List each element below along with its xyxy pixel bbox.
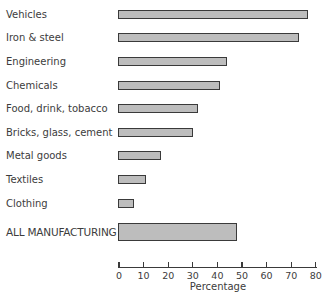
category-label: Food, drink, tobacco bbox=[6, 103, 108, 115]
bar bbox=[118, 104, 198, 113]
x-axis-tick bbox=[143, 262, 144, 268]
category-label: Chemicals bbox=[6, 80, 58, 92]
category-label: Textiles bbox=[6, 174, 43, 186]
x-axis-tick-label: 50 bbox=[236, 270, 248, 281]
x-axis-label: Percentage bbox=[190, 281, 246, 292]
x-axis-tick bbox=[168, 262, 169, 268]
x-axis-tick-label: 10 bbox=[138, 270, 150, 281]
category-label: Metal goods bbox=[6, 150, 67, 162]
bar-chart: Vehicles Iron & steel Engineering Chemic… bbox=[0, 0, 329, 294]
bar bbox=[118, 10, 308, 19]
x-axis-tick bbox=[266, 262, 267, 268]
category-label: Clothing bbox=[6, 198, 48, 210]
x-axis-tick bbox=[241, 262, 242, 268]
x-axis-tick-label: 30 bbox=[187, 270, 199, 281]
category-label: Iron & steel bbox=[6, 32, 64, 44]
x-axis-tick-label: 70 bbox=[285, 270, 297, 281]
x-axis-tick bbox=[217, 262, 218, 268]
x-axis-tick bbox=[118, 262, 119, 268]
category-label: Engineering bbox=[6, 56, 66, 68]
x-axis-tick-label: 40 bbox=[211, 270, 223, 281]
category-label-all-manufacturing: ALL MANUFACTURING bbox=[6, 226, 117, 238]
bar bbox=[118, 81, 220, 90]
x-axis-tick-label: 60 bbox=[261, 270, 273, 281]
bar bbox=[118, 57, 227, 66]
x-axis-line bbox=[119, 267, 317, 268]
bar bbox=[118, 151, 161, 160]
bar bbox=[118, 175, 146, 184]
bar-all-manufacturing bbox=[118, 223, 237, 241]
bar bbox=[118, 199, 134, 208]
x-axis-tick-label: 80 bbox=[310, 270, 322, 281]
category-label: Bricks, glass, cement bbox=[6, 127, 112, 139]
category-label: Vehicles bbox=[6, 9, 47, 21]
x-axis-tick bbox=[315, 262, 316, 268]
bar bbox=[118, 33, 299, 42]
x-axis-tick bbox=[192, 262, 193, 268]
bar bbox=[118, 128, 193, 137]
x-axis-tick-label: 0 bbox=[116, 270, 122, 281]
x-axis-tick bbox=[291, 262, 292, 268]
x-axis-tick-label: 20 bbox=[162, 270, 174, 281]
